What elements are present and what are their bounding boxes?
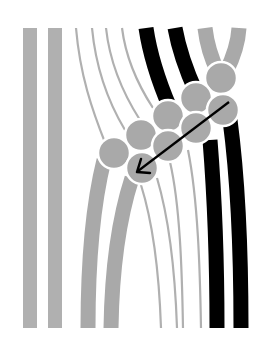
black-strand-1-bottom <box>210 140 217 328</box>
strand-diagram <box>0 0 264 345</box>
straight-bar-1 <box>23 28 37 328</box>
straight-bar-2 <box>48 28 62 328</box>
diagram-canvas <box>0 0 264 345</box>
